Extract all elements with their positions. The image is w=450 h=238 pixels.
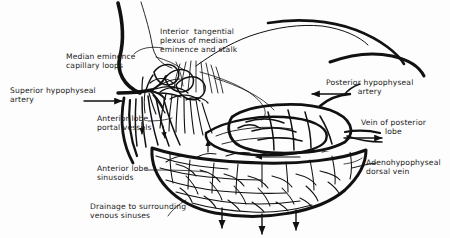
- median-eminence-capillary-loops: [150, 65, 208, 103]
- label-drainage-to-venous-sinuses: Drainage to surrounding venous sinuses: [90, 202, 186, 220]
- leader-interior-plexus: [134, 47, 163, 54]
- label-anterior-lobe-sinusoids: Anterior lobe sinusoids: [97, 164, 148, 182]
- label-posterior-hypophyseal-artery: Posterior hypophyseal artery: [326, 78, 413, 96]
- anatomical-diagram: Median eminence capillary loops Interior…: [0, 0, 450, 238]
- label-vein-of-posterior-lobe: Vein of posterior lobe: [361, 118, 426, 136]
- label-median-eminence-capillary-loops: Median eminence capillary loops: [66, 52, 136, 70]
- label-interior-tangential-plexus: Interior tangential plexus of median emi…: [160, 27, 237, 55]
- label-superior-hypophyseal-artery: Superior hypophyseal artery: [10, 86, 96, 104]
- label-adenohypophyseal-dorsal-vein: Adenohypophyseal dorsal vein: [366, 158, 441, 176]
- label-anterior-lobe-portal-vessels: Anterior lobe portal vessels: [97, 114, 152, 132]
- leader-dorsal-vein: [344, 158, 362, 164]
- leader-median-eminence: [156, 57, 184, 70]
